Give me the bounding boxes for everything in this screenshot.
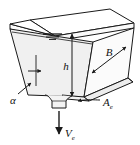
exit-velocity-label: Ve [65, 127, 75, 142]
exit-velocity-subscript: e [72, 134, 75, 142]
height-label: h [63, 60, 69, 72]
exit-area-subscript: e [110, 103, 113, 111]
angle-label: α [10, 94, 16, 106]
figure-container: h B α Ae Ve [0, 0, 140, 145]
width-label: B [106, 46, 113, 58]
exit-area-label: Ae [102, 96, 113, 111]
tank-diagram: h B α Ae Ve [0, 0, 140, 145]
exit-nozzle [45, 95, 72, 108]
